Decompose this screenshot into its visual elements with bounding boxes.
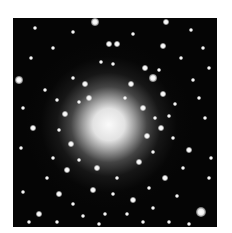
star-cluster-image <box>13 18 217 227</box>
cluster-core <box>13 18 217 227</box>
star <box>68 141 74 147</box>
star <box>123 96 127 100</box>
star <box>111 192 115 196</box>
star <box>64 167 70 173</box>
star <box>81 214 85 218</box>
star <box>147 186 151 190</box>
star <box>91 18 99 26</box>
star <box>197 96 201 100</box>
star <box>171 136 175 140</box>
star <box>62 111 68 117</box>
star <box>173 102 177 106</box>
star <box>167 220 171 224</box>
star <box>103 212 107 216</box>
star <box>111 62 115 66</box>
star <box>125 212 129 216</box>
star <box>56 191 62 197</box>
star <box>15 76 23 84</box>
star <box>55 98 59 102</box>
star <box>51 46 55 50</box>
star <box>160 91 166 97</box>
star <box>21 190 25 194</box>
star <box>144 133 150 139</box>
star <box>33 26 37 30</box>
star <box>196 207 206 217</box>
star <box>97 222 101 226</box>
star <box>181 166 185 170</box>
star <box>149 74 157 82</box>
star <box>57 128 61 132</box>
star <box>21 106 25 110</box>
star <box>157 68 161 72</box>
star <box>130 197 136 203</box>
star <box>160 43 166 49</box>
star <box>71 76 75 80</box>
star <box>114 41 120 47</box>
star <box>167 114 171 118</box>
star <box>90 187 96 193</box>
star <box>209 156 213 160</box>
star <box>115 176 119 180</box>
star <box>142 65 148 71</box>
star <box>153 116 157 120</box>
star <box>106 41 112 47</box>
star <box>77 100 81 104</box>
star <box>19 146 23 150</box>
star <box>162 175 168 181</box>
star <box>163 19 169 25</box>
star <box>86 95 92 101</box>
star <box>131 32 135 36</box>
star <box>151 150 155 154</box>
star <box>82 81 88 87</box>
star <box>207 176 211 180</box>
star <box>128 81 134 87</box>
star <box>43 88 47 92</box>
star <box>203 116 207 120</box>
star <box>77 158 81 162</box>
star <box>201 46 205 50</box>
star <box>71 30 75 34</box>
star <box>55 220 59 224</box>
star <box>189 28 193 32</box>
star <box>136 159 142 165</box>
star <box>29 56 33 60</box>
star <box>158 125 164 131</box>
star <box>191 78 195 82</box>
star <box>186 147 192 153</box>
star <box>27 220 31 224</box>
star <box>71 202 75 206</box>
star <box>45 176 49 180</box>
star <box>141 220 145 224</box>
star <box>179 56 183 60</box>
star <box>99 60 103 64</box>
star <box>140 105 146 111</box>
star <box>151 206 155 210</box>
star <box>30 125 36 131</box>
star <box>94 165 100 171</box>
star <box>51 156 55 160</box>
star <box>187 222 191 226</box>
star <box>175 194 179 198</box>
star <box>36 211 42 217</box>
star <box>207 66 211 70</box>
